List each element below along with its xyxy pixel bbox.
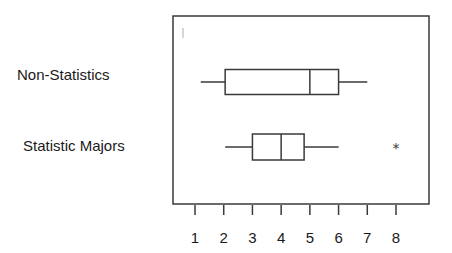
plot-frame xyxy=(173,16,429,204)
x-tick-label: 3 xyxy=(248,229,256,246)
x-tick-label: 7 xyxy=(363,229,371,246)
x-tick-label: 2 xyxy=(220,229,228,246)
x-tick-label: 8 xyxy=(392,229,400,246)
box-non-statistics xyxy=(225,70,338,95)
x-tick-label: 5 xyxy=(306,229,314,246)
outlier-statistic-majors: * xyxy=(393,140,400,156)
boxplot-chart: 12345678* xyxy=(0,0,452,253)
box-statistic-majors xyxy=(252,134,304,160)
x-tick-label: 1 xyxy=(191,229,199,246)
x-tick-label: 4 xyxy=(277,229,285,246)
x-tick-label: 6 xyxy=(334,229,342,246)
